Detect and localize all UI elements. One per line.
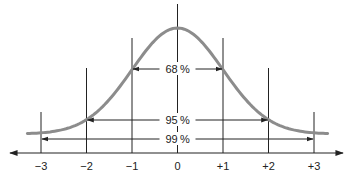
interval-label: 99 %	[166, 133, 190, 145]
x-tick-label: +3	[308, 160, 321, 172]
normal-distribution-diagram: 68 %95 %99 % −3−2−10+1+2+3	[0, 0, 353, 179]
interval-95: 95 %	[88, 110, 268, 126]
interval-99: 99 %	[42, 129, 313, 145]
x-tick-label: −1	[126, 160, 139, 172]
x-tick-label: −3	[35, 160, 48, 172]
interval-label: 68 %	[166, 63, 190, 75]
x-tick-labels: −3−2−10+1+2+3	[35, 160, 321, 172]
interval-label: 95 %	[166, 114, 190, 126]
interval-68: 68 %	[133, 59, 222, 75]
x-tick-label: +1	[217, 160, 230, 172]
x-tick-label: 0	[174, 160, 180, 172]
x-tick-label: −2	[80, 160, 93, 172]
x-tick-label: +2	[262, 160, 275, 172]
